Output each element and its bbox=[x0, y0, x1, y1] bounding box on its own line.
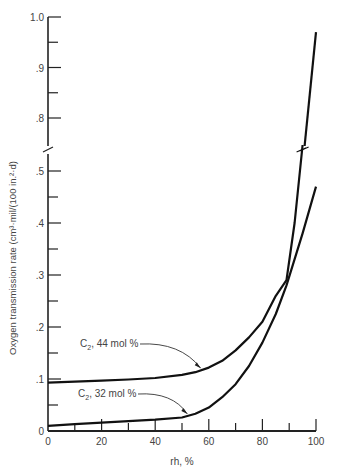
y-tick-label: .5 bbox=[36, 166, 45, 177]
y-axis-label: Oxygen transmission rate (cm³·mil/(100 i… bbox=[7, 161, 18, 355]
annotations: C2, 44 mol %C2, 32 mol % bbox=[78, 338, 201, 414]
x-tick-label: 0 bbox=[45, 436, 51, 447]
x-tick-label: 60 bbox=[203, 436, 215, 447]
annotation-arrow bbox=[140, 344, 201, 368]
y-tick-label: .2 bbox=[36, 322, 45, 333]
y-tick-label: .4 bbox=[36, 218, 45, 229]
x-tick-label: 20 bbox=[96, 436, 108, 447]
y-tick-label: .9 bbox=[36, 63, 45, 74]
series-annotation: C2, 32 mol % bbox=[78, 388, 136, 401]
x-tick-label: 40 bbox=[150, 436, 162, 447]
y-tick-label: .8 bbox=[36, 113, 45, 124]
chart-svg: 0.1.2.3.4.5.8.91.0020406080100 C2, 44 mo… bbox=[0, 0, 346, 473]
y-tick-label: 0 bbox=[38, 426, 44, 437]
curves bbox=[48, 32, 316, 426]
arrowhead-icon bbox=[195, 362, 201, 368]
x-tick-label: 80 bbox=[257, 436, 269, 447]
y-tick-label: .1 bbox=[36, 374, 45, 385]
x-axis-label: rh, % bbox=[170, 456, 193, 467]
arrowhead-icon bbox=[181, 408, 187, 414]
y-tick-label: 1.0 bbox=[30, 12, 44, 23]
y-tick-label: .3 bbox=[36, 270, 45, 281]
x-tick-label: 100 bbox=[308, 436, 325, 447]
oxygen-transmission-chart: 0.1.2.3.4.5.8.91.0020406080100 C2, 44 mo… bbox=[0, 0, 346, 473]
series-line-upper bbox=[305, 32, 316, 146]
axis-break-icon bbox=[43, 147, 53, 152]
annotation-arrow bbox=[138, 394, 187, 414]
series-annotation: C2, 44 mol % bbox=[80, 338, 138, 351]
